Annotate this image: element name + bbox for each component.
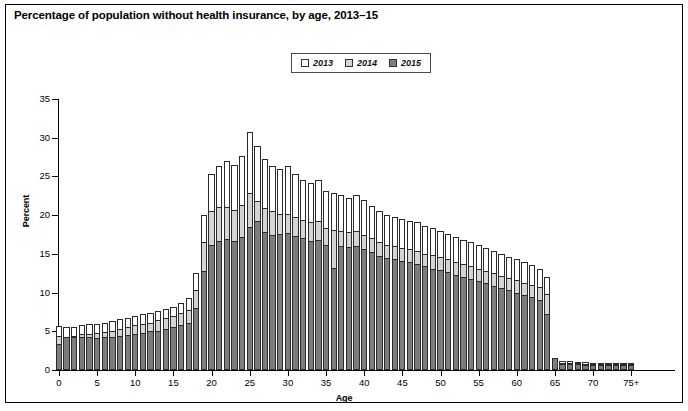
chart-figure: Percentage of population without health … [0,0,688,411]
chart-legend: 201320142015 [291,53,431,73]
y-tick-20 [52,215,58,216]
legend-item-2015[interactable]: 2015 [389,59,421,68]
y-tick-15 [52,254,58,255]
x-tick-40 [364,371,365,376]
x-tick-45 [402,371,403,376]
bar-2015-age-5 [94,338,100,370]
legend-item-2013[interactable]: 2013 [301,59,333,68]
bar-2015-age-43 [384,258,390,370]
bar-2015-age-20 [208,245,214,370]
bar-2015-age-4 [86,337,92,370]
bar-2015-age-17 [186,323,192,370]
x-tick-65 [555,371,556,376]
y-tick-0 [52,370,58,371]
y-tick-10 [52,293,58,294]
bar-2015-age-35 [323,245,329,370]
bar-2015-age-19 [201,271,207,370]
y-tick-label-10: 10 [26,288,50,298]
bar-2015-age-18 [193,308,199,370]
bar-2015-age-64 [544,314,550,370]
bar-2015-age-29 [277,234,283,370]
x-tick-70 [593,371,594,376]
y-tick-label-15: 15 [26,249,50,259]
bar-2015-age-12 [147,331,153,370]
bar-2015-age-49 [430,269,436,370]
x-tick-label-60: 60 [502,378,532,388]
bar-2015-age-39 [353,246,359,370]
y-tick-label-35: 35 [26,94,50,104]
legend-label-2013: 2013 [313,59,333,68]
x-tick-label-70: 70 [578,378,608,388]
bar-2015-age-30 [285,233,291,370]
y-tick-label-0: 0 [26,365,50,375]
x-tick-55 [479,371,480,376]
bar-2015-age-13 [155,331,161,370]
x-tick-label-45: 45 [387,378,417,388]
bar-2015-age-27 [262,232,268,370]
bar-2015-age-72 [605,365,611,370]
bar-2015-age-14 [163,329,169,370]
y-tick-30 [52,138,58,139]
x-tick-label-15: 15 [158,378,188,388]
bar-2015-age-11 [140,333,146,370]
x-tick-75+ [631,371,632,376]
bar-2015-age-0 [56,344,62,370]
chart-title: Percentage of population without health … [14,9,378,21]
bar-2015-age-3 [79,337,85,370]
legend-item-2014[interactable]: 2014 [345,59,377,68]
y-tick-label-5: 5 [26,326,50,336]
x-tick-25 [250,371,251,376]
bar-2015-age-50 [437,270,443,370]
bar-2015-age-42 [376,256,382,370]
x-tick-label-50: 50 [426,378,456,388]
bar-2015-age-10 [132,334,138,370]
bar-2015-age-48 [422,266,428,370]
bar-2015-age-33 [308,241,314,370]
x-tick-5 [97,371,98,376]
bar-2015-age-46 [407,262,413,370]
bar-2015-age-8 [117,336,123,370]
x-tick-label-65: 65 [540,378,570,388]
legend-swatch-2015 [389,59,397,67]
bar-2015-age-41 [369,252,375,370]
x-tick-60 [517,371,518,376]
bar-2015-age-37 [338,246,344,370]
bar-2015-age-60 [514,293,520,370]
bar-2015-age-69 [582,365,588,370]
bar-2015-age-25 [247,227,253,370]
bar-2015-age-32 [300,238,306,370]
x-tick-label-25: 25 [235,378,265,388]
bar-2015-age-36 [331,268,337,370]
legend-swatch-2013 [301,59,309,67]
bar-2015-age-53 [460,277,466,370]
bar-2015-age-16 [178,325,184,370]
x-tick-label-35: 35 [311,378,341,388]
x-tick-label-75+: 75+ [616,378,646,388]
x-tick-10 [135,371,136,376]
y-tick-label-30: 30 [26,133,50,143]
bar-2015-age-55 [476,281,482,370]
bar-2015-age-15 [170,327,176,370]
bar-2015-age-61 [521,295,527,370]
x-tick-35 [326,371,327,376]
bar-2015-age-70 [590,365,596,370]
bar-2015-age-34 [315,240,321,370]
bar-2015-age-73 [613,365,619,370]
x-tick-30 [288,371,289,376]
x-tick-label-40: 40 [349,378,379,388]
legend-label-2015: 2015 [401,59,421,68]
bar-2015-age-24 [239,237,245,370]
bar-2015-age-65 [552,358,558,370]
bar-2015-age-9 [125,335,131,370]
legend-swatch-2014 [345,59,353,67]
bar-2015-age-44 [392,259,398,370]
y-tick-35 [52,99,58,100]
bar-2015-age-31 [292,236,298,370]
x-tick-label-5: 5 [82,378,112,388]
bar-2015-age-57 [491,286,497,370]
bar-2015-age-63 [537,300,543,370]
bar-2015-age-6 [102,337,108,370]
bar-2015-age-68 [575,364,581,370]
bar-2015-age-62 [529,297,535,370]
bar-2015-age-40 [361,249,367,370]
